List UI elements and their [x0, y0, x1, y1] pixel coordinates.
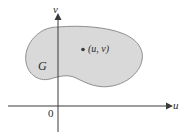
v-axis-label: v — [53, 4, 58, 15]
coordinate-diagram — [0, 0, 184, 137]
sample-point-marker — [81, 48, 85, 52]
point-coordinates-label: (u, v) — [88, 44, 109, 54]
origin-label: 0 — [48, 108, 54, 119]
region-g-shape — [26, 26, 143, 87]
figure-canvas: v u 0 G (u, v) — [0, 0, 184, 137]
u-axis-arrowhead — [166, 103, 173, 110]
u-axis-label: u — [173, 100, 179, 111]
region-g-label: G — [38, 60, 47, 72]
